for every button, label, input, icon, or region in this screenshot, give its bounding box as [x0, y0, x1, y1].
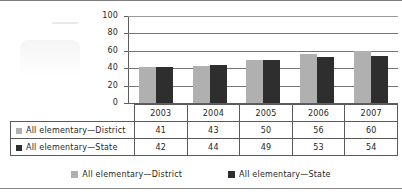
table-cell-state-2005: 49 [240, 139, 293, 156]
series-label-text-district: All elementary—District [26, 126, 126, 135]
table-row-years: 2003 2004 2005 2006 2007 [11, 105, 398, 122]
table-row: All elementary—District 41 43 50 56 60 [11, 122, 398, 139]
bar-group-2004 [183, 16, 237, 103]
bar-district-2007 [354, 51, 371, 103]
table-cell-district-2007: 60 [345, 122, 398, 139]
bar-chart-figure: 100 80 60 40 20 0 [0, 0, 402, 194]
y-tick-40: 40 [124, 68, 128, 69]
legend-item-district: All elementary—District [71, 170, 182, 179]
bar-district-2004 [193, 66, 210, 103]
table-cell-district-2004: 43 [187, 122, 240, 139]
table-year-header-2007: 2007 [345, 105, 398, 122]
table-cell-district-2006: 56 [292, 122, 345, 139]
table-cell-district-2003: 41 [135, 122, 188, 139]
bar-district-2006 [300, 54, 317, 103]
table-year-header-2004: 2004 [187, 105, 240, 122]
legend-swatch-state-icon [228, 171, 235, 178]
bar-group-2005 [237, 16, 291, 103]
top-divider-rule [0, 0, 402, 1]
chart-legend: All elementary—District All elementary—S… [0, 170, 402, 179]
bar-group-2006 [290, 16, 344, 103]
table-year-header-2006: 2006 [292, 105, 345, 122]
table-row: All elementary—State 42 44 49 53 54 [11, 139, 398, 156]
scan-artifact [52, 22, 78, 24]
y-tick-label-40: 40 [107, 64, 118, 72]
bar-group-2003 [129, 16, 183, 103]
swatch-district-icon [16, 128, 22, 134]
bar-district-2005 [246, 60, 263, 104]
bar-state-2005 [263, 60, 280, 103]
table-year-header-2005: 2005 [240, 105, 293, 122]
y-tick-60: 60 [124, 51, 128, 52]
swatch-state-icon [16, 145, 22, 151]
series-label-text-state: All elementary—State [26, 143, 118, 152]
table-cell-state-2006: 53 [292, 139, 345, 156]
bar-district-2003 [139, 67, 156, 103]
y-tick-label-60: 60 [107, 47, 118, 55]
y-tick-20: 20 [124, 86, 128, 87]
bottom-divider-rule [0, 188, 402, 189]
bar-state-2003 [156, 67, 173, 104]
y-tick-label-100: 100 [102, 12, 118, 20]
y-tick-80: 80 [124, 33, 128, 34]
legend-label-district: All elementary—District [82, 170, 182, 179]
table-cell-district-2005: 50 [240, 122, 293, 139]
table-cell-state-2003: 42 [135, 139, 188, 156]
bar-state-2004 [210, 65, 227, 103]
y-tick-label-80: 80 [107, 29, 118, 37]
bars-layer [129, 16, 398, 103]
table-corner-cell [11, 105, 135, 122]
scan-artifact-secondary [20, 40, 80, 78]
legend-label-state: All elementary—State [239, 170, 331, 179]
legend-item-state: All elementary—State [228, 170, 331, 179]
y-tick-100: 100 [124, 16, 128, 17]
table-cell-state-2007: 54 [345, 139, 398, 156]
data-table: 2003 2004 2005 2006 2007 All elementary—… [10, 104, 398, 156]
y-tick-label-20: 20 [107, 82, 118, 90]
table-series-label-state: All elementary—State [11, 139, 135, 156]
bar-group-2007 [344, 16, 398, 103]
bar-state-2007 [371, 56, 388, 103]
bar-state-2006 [317, 57, 334, 103]
table-series-label-district: All elementary—District [11, 122, 135, 139]
table-cell-state-2004: 44 [187, 139, 240, 156]
table-year-header-2003: 2003 [135, 105, 188, 122]
legend-swatch-district-icon [71, 171, 78, 178]
plot-area: 100 80 60 40 20 0 [128, 16, 398, 104]
